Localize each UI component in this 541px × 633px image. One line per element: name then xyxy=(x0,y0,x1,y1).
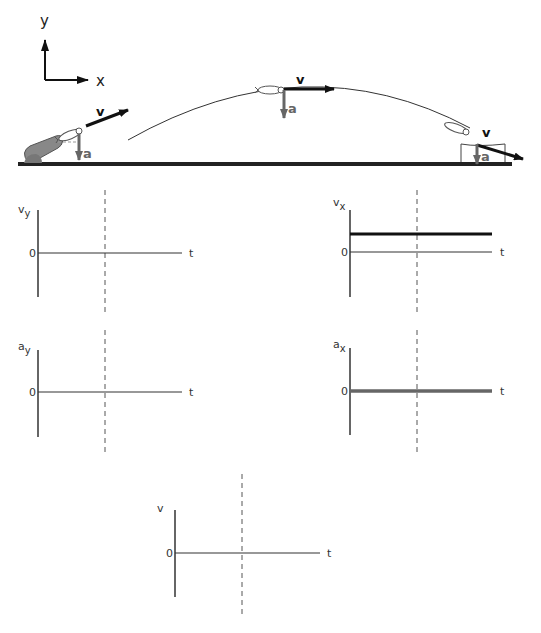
velocity-label-landing: v xyxy=(482,125,491,140)
graph-ax: ax 0 t xyxy=(333,330,505,455)
x-axis-label: x xyxy=(96,72,105,90)
projectile-launch: v a xyxy=(55,104,128,161)
t-axis-label: t xyxy=(327,547,332,560)
origin-label: 0 xyxy=(166,547,173,560)
graph-vx: vx 0 t xyxy=(333,190,505,312)
t-axis-label: t xyxy=(189,386,194,399)
graph-ylabel: v xyxy=(157,502,164,515)
svg-text:ay: ay xyxy=(18,340,31,356)
projectile-diagram: y x v a v a xyxy=(0,0,541,633)
velocity-label-launch: v xyxy=(96,104,105,119)
svg-text:vy: vy xyxy=(18,203,31,219)
t-axis-label: t xyxy=(189,247,194,260)
origin-label: 0 xyxy=(29,247,36,260)
trajectory-arc xyxy=(128,87,470,140)
graph-v: v 0 t xyxy=(157,474,332,618)
rocket-icon xyxy=(443,120,469,136)
projectile-peak: v a xyxy=(255,72,334,118)
origin-label: 0 xyxy=(29,386,36,399)
graph-ylabel-sub: y xyxy=(25,345,31,356)
origin-label: 0 xyxy=(341,385,348,398)
graph-ylabel-sub: x xyxy=(340,201,346,212)
origin-label: 0 xyxy=(341,246,348,259)
graph-ylabel: a xyxy=(18,340,25,353)
svg-text:ax: ax xyxy=(333,338,346,354)
acceleration-label-landing: a xyxy=(481,149,490,164)
graph-ylabel-sub: y xyxy=(25,208,31,219)
acceleration-label-launch: a xyxy=(83,146,92,161)
velocity-vector-launch-icon xyxy=(86,110,128,126)
graph-ylabel-sub: x xyxy=(340,343,346,354)
graph-ylabel: a xyxy=(333,338,340,351)
velocity-label-peak: v xyxy=(296,72,305,87)
t-axis-label: t xyxy=(500,385,505,398)
graph-ay: ay 0 t xyxy=(18,330,194,455)
y-axis-label: y xyxy=(40,12,49,30)
projectile-landing: v a xyxy=(443,120,523,164)
acceleration-label-peak: a xyxy=(288,101,297,116)
rocket-icon xyxy=(255,86,284,94)
t-axis-label: t xyxy=(500,246,505,259)
graph-vy: vy 0 t xyxy=(18,190,194,312)
coordinate-axes: y x xyxy=(40,12,105,90)
svg-text:vx: vx xyxy=(333,196,346,212)
